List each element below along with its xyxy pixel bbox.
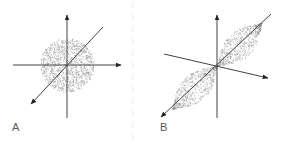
- figure-canvas: [0, 0, 281, 142]
- diagonal-axis-b: [161, 14, 271, 117]
- axes-b: [161, 14, 271, 118]
- panel-label-a: A: [12, 121, 19, 133]
- panel-label-b: B: [160, 121, 167, 133]
- axes-a: [13, 15, 121, 118]
